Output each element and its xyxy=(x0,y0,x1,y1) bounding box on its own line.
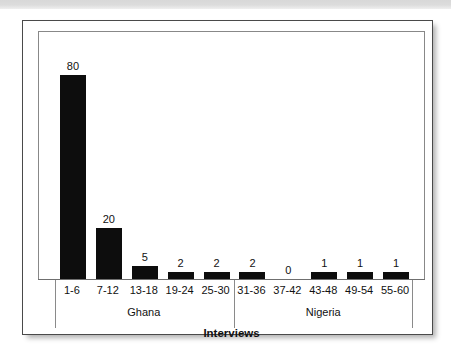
x-tick-label: 49-54 xyxy=(345,284,373,296)
x-tick-label: 55-60 xyxy=(381,284,409,296)
bar-slot: 5 xyxy=(127,32,163,279)
x-tick-label: 25-30 xyxy=(201,284,229,296)
bar[interactable] xyxy=(383,272,409,279)
bar-slot: 80 xyxy=(55,32,91,279)
x-tick-label: 7-12 xyxy=(97,284,119,296)
bar-series: 802052220111 xyxy=(39,32,424,279)
bar-slot: 1 xyxy=(378,32,414,279)
bar-value-label: 1 xyxy=(357,257,363,269)
bar[interactable] xyxy=(347,272,373,279)
plot-area: 802052220111 xyxy=(38,31,425,280)
bar-value-label: 80 xyxy=(67,60,79,72)
x-tick-label: 1-6 xyxy=(64,284,80,296)
bar-value-label: 1 xyxy=(321,257,327,269)
x-tick-label: 31-36 xyxy=(237,284,265,296)
bar-slot: 2 xyxy=(199,32,235,279)
bar[interactable] xyxy=(239,272,265,279)
bar-value-label: 0 xyxy=(285,264,291,276)
bar-value-label: 1 xyxy=(393,257,399,269)
bar-value-label: 2 xyxy=(249,257,255,269)
bar-slot: 2 xyxy=(163,32,199,279)
x-axis-title: Interviews xyxy=(38,327,425,339)
bar-slot: 2 xyxy=(235,32,271,279)
group-divider xyxy=(234,280,235,328)
bar[interactable] xyxy=(168,272,194,279)
bar-value-label: 20 xyxy=(103,213,115,225)
bar-slot: 20 xyxy=(91,32,127,279)
bar[interactable] xyxy=(60,75,86,279)
bar-value-label: 5 xyxy=(142,251,148,263)
bar[interactable] xyxy=(311,272,337,279)
x-tick-label: 43-48 xyxy=(309,284,337,296)
bar-value-label: 2 xyxy=(178,257,184,269)
x-group-label: Ghana xyxy=(127,306,160,318)
group-divider xyxy=(55,280,56,328)
x-tick-label: 19-24 xyxy=(166,284,194,296)
x-axis-tick-labels: 1-67-1213-1819-2425-3031-3637-4243-4849-… xyxy=(38,280,425,302)
scan-top-band xyxy=(0,0,451,9)
group-divider xyxy=(412,280,413,328)
figure-frame: Number of New Codes 802052220111 1-67-12… xyxy=(22,20,433,335)
bar[interactable] xyxy=(204,272,230,279)
bar-slot: 0 xyxy=(270,32,306,279)
x-group-label: Nigeria xyxy=(306,306,341,318)
x-axis-group-labels: GhanaNigeria xyxy=(38,304,425,326)
bar[interactable] xyxy=(96,228,122,279)
bar-slot: 1 xyxy=(342,32,378,279)
x-tick-label: 13-18 xyxy=(130,284,158,296)
bar-slot: 1 xyxy=(306,32,342,279)
bar[interactable] xyxy=(132,266,158,279)
x-tick-label: 37-42 xyxy=(273,284,301,296)
bar-value-label: 2 xyxy=(213,257,219,269)
